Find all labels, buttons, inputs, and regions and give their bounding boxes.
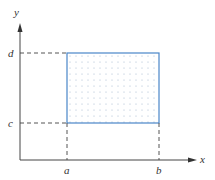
tick-label-a: a [64, 164, 70, 176]
y-axis-arrow-icon [18, 23, 23, 32]
diagram-canvas: y x d c a b [0, 0, 215, 180]
tick-label-d: d [8, 47, 14, 59]
tick-label-c: c [8, 117, 13, 129]
x-axis-arrow-icon [188, 158, 197, 163]
tick-label-b: b [156, 164, 162, 176]
x-axis-label: x [199, 153, 205, 165]
y-axis-label: y [13, 6, 19, 18]
rectangle-region [67, 53, 159, 123]
